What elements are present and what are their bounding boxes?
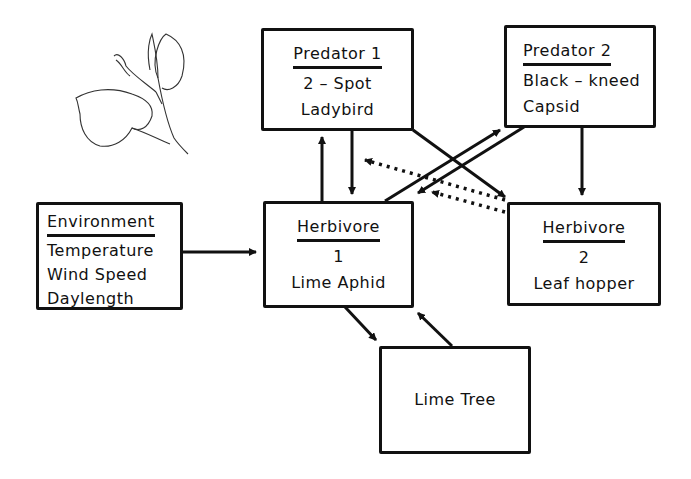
herbivore1-line1: 1: [266, 244, 411, 270]
predator2-line1: Black – kneed: [523, 68, 653, 94]
environment-box: Environment Temperature Wind Speed Dayle…: [36, 202, 183, 310]
herbivore1-title: Herbivore: [297, 216, 380, 242]
arrow-limetree-to-herbivore1: [418, 313, 452, 346]
lime-leaf-illustration-icon: [70, 30, 200, 160]
predator1-title: Predator 1: [293, 43, 381, 69]
predator2-line2: Capsid: [523, 94, 653, 120]
limetree-label: Lime Tree: [382, 387, 528, 413]
herbivore2-line1: 2: [510, 245, 658, 271]
dotted-arrow-herbivore2-to-herbivore1: [432, 192, 505, 212]
herbivore2-title: Herbivore: [543, 217, 626, 243]
predator1-box: Predator 1 2 – Spot Ladybird: [261, 28, 414, 131]
predator2-box: Predator 2 Black – kneed Capsid: [504, 25, 656, 128]
herbivore2-box: Herbivore 2 Leaf hopper: [507, 202, 661, 306]
herbivore2-line2: Leaf hopper: [510, 271, 658, 297]
environment-line3: Daylength: [47, 287, 180, 311]
predator1-line2: Ladybird: [264, 97, 411, 123]
limetree-box: Lime Tree: [379, 346, 531, 454]
herbivore1-box: Herbivore 1 Lime Aphid: [263, 201, 414, 308]
environment-line2: Wind Speed: [47, 263, 180, 287]
predator1-line1: 2 – Spot: [264, 71, 411, 97]
arrow-herbivore1-to-predator2: [385, 130, 500, 201]
arrow-predator2-to-herbivore1: [418, 127, 524, 193]
environment-title: Environment: [47, 211, 155, 237]
environment-line1: Temperature: [47, 239, 180, 263]
herbivore1-line2: Lime Aphid: [266, 270, 411, 296]
predator2-title: Predator 2: [523, 40, 611, 66]
arrow-herbivore1-to-limetree: [345, 307, 376, 340]
